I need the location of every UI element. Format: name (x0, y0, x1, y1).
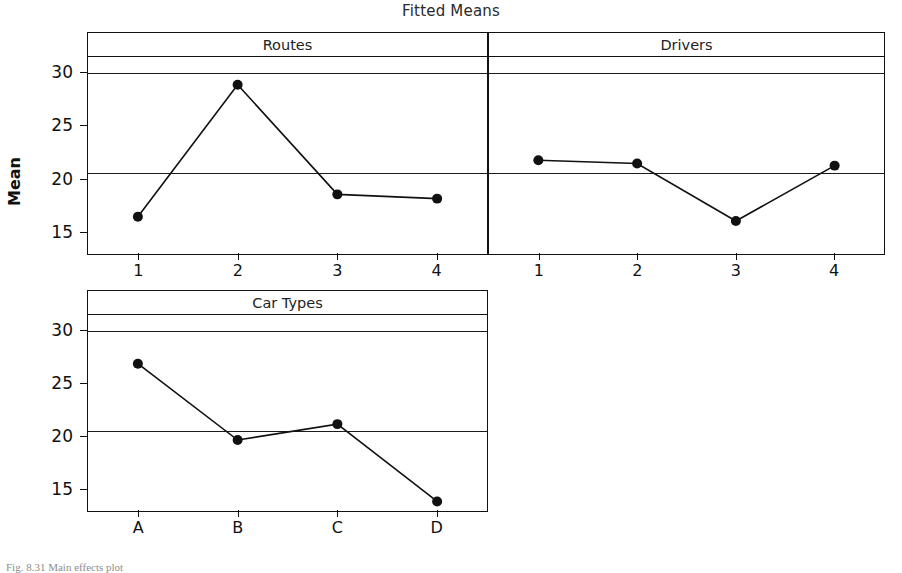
x-tick-car-types-B (238, 510, 239, 517)
data-point-drivers-3[interactable] (731, 216, 741, 226)
plot-area-routes (88, 57, 487, 254)
series-routes (88, 57, 487, 254)
y-label-car-types-30: 30 (29, 320, 73, 340)
x-tick-drivers-4 (834, 253, 835, 260)
data-point-car-types-A[interactable] (133, 359, 143, 369)
series-drivers (489, 57, 884, 254)
series-car-types (88, 315, 487, 511)
x-label-routes-3: 3 (332, 261, 342, 280)
y-tick-routes-15 (80, 232, 87, 233)
series-line-routes (138, 85, 437, 217)
data-point-car-types-C[interactable] (332, 419, 342, 429)
x-tick-routes-4 (437, 253, 438, 260)
series-line-car-types (138, 364, 437, 502)
x-tick-car-types-A (138, 510, 139, 517)
x-label-routes-2: 2 (233, 261, 243, 280)
x-label-drivers-2: 2 (632, 261, 642, 280)
plot-area-drivers (489, 57, 884, 254)
data-point-routes-2[interactable] (233, 80, 243, 90)
y-tick-routes-30 (80, 72, 87, 73)
x-label-drivers-1: 1 (534, 261, 544, 280)
panel-header-drivers: Drivers (489, 33, 884, 57)
figure-caption: Fig. 8.31 Main effects plot (6, 561, 123, 573)
x-label-routes-1: 1 (133, 261, 143, 280)
x-tick-routes-2 (238, 253, 239, 260)
y-tick-routes-20 (80, 179, 87, 180)
y-tick-car-types-30 (80, 330, 87, 331)
x-label-car-types-A: A (133, 518, 144, 537)
data-point-drivers-1[interactable] (533, 155, 543, 165)
panel-car-types: Car Types (87, 290, 488, 512)
data-point-car-types-D[interactable] (432, 496, 442, 506)
y-label-car-types-20: 20 (29, 426, 73, 446)
y-tick-car-types-20 (80, 436, 87, 437)
data-point-car-types-B[interactable] (233, 435, 243, 445)
chart-title: Fitted Means (0, 2, 902, 20)
y-label-routes-20: 20 (29, 169, 73, 189)
series-line-drivers (538, 160, 834, 221)
data-point-routes-1[interactable] (133, 212, 143, 222)
panel-drivers: Drivers (488, 32, 885, 255)
x-tick-routes-1 (138, 253, 139, 260)
data-point-routes-4[interactable] (432, 194, 442, 204)
y-label-routes-25: 25 (29, 115, 73, 135)
data-point-routes-3[interactable] (332, 189, 342, 199)
x-tick-drivers-2 (637, 253, 638, 260)
y-axis-title: Mean (5, 152, 24, 212)
plot-area-car-types (88, 315, 487, 511)
y-label-car-types-15: 15 (29, 479, 73, 499)
x-label-car-types-D: D (431, 518, 443, 537)
panel-routes: Routes (87, 32, 488, 255)
data-point-drivers-2[interactable] (632, 158, 642, 168)
y-label-car-types-25: 25 (29, 373, 73, 393)
data-point-drivers-4[interactable] (830, 161, 840, 171)
x-label-drivers-4: 4 (829, 261, 839, 280)
x-label-car-types-C: C (332, 518, 343, 537)
y-tick-car-types-15 (80, 489, 87, 490)
x-tick-drivers-1 (539, 253, 540, 260)
x-label-routes-4: 4 (432, 261, 442, 280)
x-tick-drivers-3 (736, 253, 737, 260)
panel-header-car-types: Car Types (88, 291, 487, 315)
panel-header-routes: Routes (88, 33, 487, 57)
x-tick-car-types-D (437, 510, 438, 517)
y-label-routes-30: 30 (29, 62, 73, 82)
y-tick-routes-25 (80, 125, 87, 126)
x-label-drivers-3: 3 (731, 261, 741, 280)
x-label-car-types-B: B (232, 518, 243, 537)
x-tick-routes-3 (337, 253, 338, 260)
x-tick-car-types-C (337, 510, 338, 517)
y-label-routes-15: 15 (29, 222, 73, 242)
y-tick-car-types-25 (80, 383, 87, 384)
